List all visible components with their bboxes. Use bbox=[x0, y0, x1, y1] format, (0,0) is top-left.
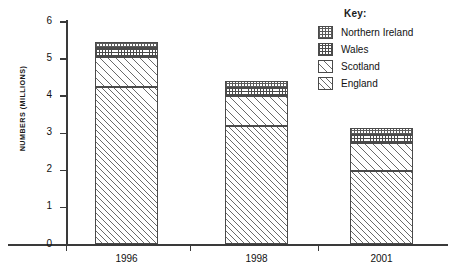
legend-item: England bbox=[318, 75, 458, 92]
y-tick-5 bbox=[60, 58, 67, 59]
legend-title: Key: bbox=[344, 8, 458, 19]
legend-item: Northern Ireland bbox=[318, 24, 458, 41]
y-tick-6 bbox=[60, 21, 67, 22]
x-tick bbox=[190, 244, 191, 251]
y-tick-label: 1 bbox=[6, 200, 52, 211]
bar-segment bbox=[95, 48, 158, 57]
legend-swatch-icon bbox=[318, 43, 333, 56]
stacked-bar-chart: NUMBERS (MILLIONS) 0123456 199619982001 … bbox=[0, 0, 460, 280]
y-tick-3 bbox=[60, 133, 67, 134]
legend-label: England bbox=[341, 78, 378, 89]
legend-label: Scotland bbox=[341, 61, 380, 72]
x-tick-label-2001: 2001 bbox=[342, 253, 422, 264]
x-tick-label-1998: 1998 bbox=[217, 253, 297, 264]
bar-segment bbox=[225, 88, 288, 96]
bar-segment bbox=[350, 171, 413, 244]
bar-segment bbox=[350, 128, 413, 135]
y-tick-label: 0 bbox=[6, 238, 52, 249]
x-tick-label-1996: 1996 bbox=[87, 253, 167, 264]
y-tick-1 bbox=[60, 207, 67, 208]
y-tick-2 bbox=[60, 170, 67, 171]
bar-segment bbox=[95, 57, 158, 87]
y-axis-title: NUMBERS (MILLIONS) bbox=[18, 49, 27, 169]
bar-segment bbox=[225, 96, 288, 126]
x-tick bbox=[318, 244, 319, 251]
bar-segment bbox=[95, 87, 158, 245]
x-tick bbox=[66, 244, 67, 251]
legend-label: Wales bbox=[341, 44, 368, 55]
legend-label: Northern Ireland bbox=[341, 27, 413, 38]
y-tick-label: 2 bbox=[6, 163, 52, 174]
y-tick-label: 4 bbox=[6, 89, 52, 100]
legend-items: Northern IrelandWalesScotlandEngland bbox=[318, 24, 458, 92]
y-tick-label: 6 bbox=[6, 15, 52, 26]
y-tick-label: 3 bbox=[6, 126, 52, 137]
legend-item: Wales bbox=[318, 41, 458, 58]
bar-segment bbox=[225, 126, 288, 245]
bar-segment bbox=[95, 42, 158, 48]
legend-swatch-icon bbox=[318, 60, 333, 73]
bar-segment bbox=[350, 135, 413, 142]
bar-segment bbox=[225, 81, 288, 88]
legend-swatch-icon bbox=[318, 77, 333, 90]
y-tick-label: 5 bbox=[6, 52, 52, 63]
legend-item: Scotland bbox=[318, 58, 458, 75]
bar-segment bbox=[350, 143, 413, 172]
legend: Key: Northern IrelandWalesScotlandEnglan… bbox=[318, 8, 458, 92]
legend-swatch-icon bbox=[318, 26, 333, 39]
y-tick-4 bbox=[60, 95, 67, 96]
